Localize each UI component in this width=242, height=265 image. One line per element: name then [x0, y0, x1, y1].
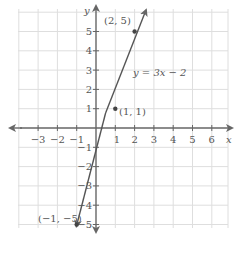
y-tick: 2: [86, 84, 92, 95]
x-tick: 2: [131, 134, 137, 145]
y-tick: −1: [77, 142, 92, 153]
y-tick: −2: [77, 161, 92, 172]
y-axis-label: y: [83, 5, 90, 16]
y-tick: 4: [86, 45, 92, 56]
x-tick: 5: [189, 134, 195, 145]
point-1-1: [113, 107, 117, 111]
point-label-2-5: (2, 5): [104, 15, 131, 26]
y-tick: −3: [77, 180, 92, 191]
x-tick: 4: [170, 134, 176, 145]
equation-label: y = 3x − 2: [132, 67, 187, 78]
x-tick: 3: [151, 134, 157, 145]
point-label-1-1: (1, 1): [119, 106, 146, 117]
x-tick: −2: [50, 134, 65, 145]
x-tick: −3: [31, 134, 46, 145]
point-2-5: [132, 29, 136, 33]
axes: [10, 6, 232, 232]
y-tick: 1: [86, 103, 92, 114]
y-tick: −4: [77, 200, 92, 211]
point-label-neg1-neg5: (−1, −5): [38, 213, 82, 224]
x-tick-labels: −3 −2 −1 1 2 3 4 5 6: [31, 134, 215, 145]
x-tick: 1: [114, 134, 120, 145]
y-tick: 3: [86, 65, 92, 76]
x-axis-label: x: [226, 134, 232, 145]
chart-svg: −3 −2 −1 1 2 3 4 5 6 x 5 4 3 2 1 −1 −2 −…: [0, 0, 242, 265]
grid: [18, 9, 228, 228]
y-tick: 5: [86, 26, 92, 37]
coordinate-plane-chart: −3 −2 −1 1 2 3 4 5 6 x 5 4 3 2 1 −1 −2 −…: [0, 0, 242, 265]
x-tick: 6: [209, 134, 215, 145]
